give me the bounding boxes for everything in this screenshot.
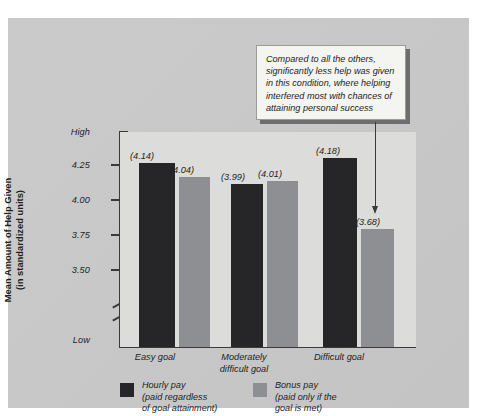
annotation-callout-text: Compared to all the others, significantl…: [266, 53, 397, 114]
annotation-line-5: attaining personal success: [266, 102, 397, 114]
bar-value-difficult-bonus: (3.68): [346, 217, 390, 227]
annotation-line-2: significantly less help was given: [266, 65, 397, 77]
annotation-line-3: in this condition, where helping: [266, 77, 397, 89]
bar-difficult-hourly: [323, 158, 357, 347]
legend-swatch-hourly-pay: [120, 383, 134, 397]
bar-moderate-bonus: [267, 181, 298, 347]
x-axis-label-moderate-line-2: difficult goal: [204, 364, 284, 376]
y-axis-label-high: High: [71, 127, 90, 137]
bar-value-easy-bonus: (4.04): [160, 165, 204, 175]
y-axis-label-400: 4.00: [72, 195, 90, 205]
annotation-arrow-icon: [371, 122, 380, 216]
bar-difficult-bonus: [361, 229, 394, 347]
chart-panel: Mean Amount of Help Given (in standardiz…: [8, 18, 469, 408]
y-axis-label-low: Low: [73, 335, 90, 345]
x-axis-label-easy-goal: Easy goal: [116, 352, 194, 364]
scan-artifact: [0, 0, 477, 5]
y-axis-title: Mean Amount of Help Given (in standardiz…: [2, 128, 26, 352]
legend-label-hourly-pay-line-1: Hourly pay: [142, 380, 217, 392]
annotation-line-4: interfered most with chances of: [266, 90, 397, 102]
x-axis-label-moderately-difficult-goal: Moderately difficult goal: [204, 352, 284, 375]
x-axis-label-easy-goal-line-1: Easy goal: [116, 352, 194, 364]
legend-label-bonus-pay-line-2: (paid only if the: [275, 392, 337, 404]
y-axis-label-375: 3.75: [72, 230, 90, 240]
x-axis-label-difficult-goal-line-1: Difficult goal: [297, 352, 381, 364]
legend-label-bonus-pay-line-1: Bonus pay: [275, 380, 337, 392]
bar-value-moderate-bonus: (4.01): [248, 169, 292, 179]
bar-moderate-hourly: [231, 184, 263, 347]
legend-label-bonus-pay-line-3: goal is met): [275, 403, 337, 415]
bar-easy-bonus: [179, 177, 210, 347]
legend-label-hourly-pay-line-2: (paid regardless: [142, 392, 217, 404]
x-axis-label-difficult-goal: Difficult goal: [297, 352, 381, 364]
legend-label-hourly-pay-line-3: of goal attainment): [142, 403, 217, 415]
x-axis-label-moderate-line-1: Moderately: [204, 352, 284, 364]
bar-value-easy-hourly: (4.14): [120, 151, 164, 161]
y-axis-label-425: 4.25: [72, 160, 90, 170]
legend-label-bonus-pay: Bonus pay (paid only if the goal is met): [275, 380, 337, 415]
y-axis-title-line-1: Mean Amount of Help Given: [2, 128, 14, 352]
legend-label-hourly-pay: Hourly pay (paid regardless of goal atta…: [142, 380, 217, 415]
bar-value-difficult-hourly: (4.18): [306, 146, 350, 156]
y-axis-title-line-2: (in standardized units): [14, 128, 26, 352]
bar-easy-hourly: [139, 163, 175, 347]
legend-swatch-bonus-pay: [253, 383, 267, 397]
y-axis-label-350: 3.50: [72, 265, 90, 275]
annotation-callout: Compared to all the others, significantl…: [256, 45, 406, 120]
annotation-line-1: Compared to all the others,: [266, 53, 397, 65]
